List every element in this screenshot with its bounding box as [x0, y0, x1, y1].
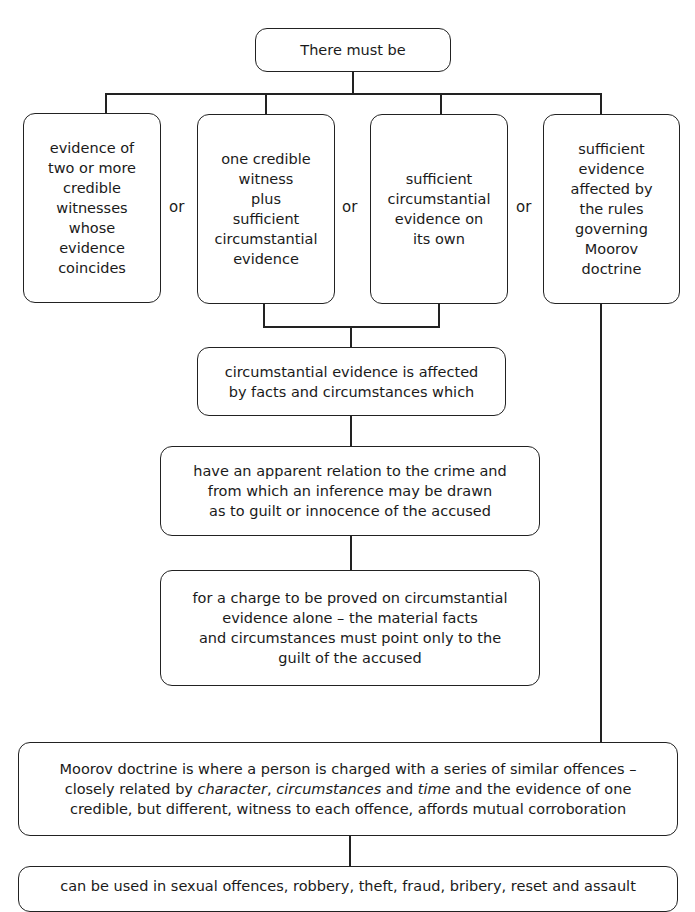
option-label: sufficient circumstantial evidence on it…: [388, 169, 491, 249]
connector: [265, 93, 267, 114]
connector: [105, 93, 107, 114]
circumstantial-step-3: for a charge to be proved on circumstant…: [160, 570, 540, 686]
or-separator: or: [169, 198, 184, 216]
connector: [350, 536, 352, 571]
or-separator: or: [342, 198, 357, 216]
text: and the evidence of one: [450, 781, 631, 797]
option-circumstantial-alone: sufficient circumstantial evidence on it…: [370, 114, 508, 304]
moorov-doctrine-definition: Moorov doctrine is where a person is cha…: [18, 742, 678, 836]
or-separator: or: [516, 198, 531, 216]
connector: [440, 93, 442, 114]
moorov-line-3: credible, but different, witness to each…: [60, 799, 637, 819]
step-text: for a charge to be proved on circumstant…: [192, 588, 507, 668]
option-two-witnesses: evidence of two or more credible witness…: [23, 113, 161, 303]
text: and: [381, 781, 418, 797]
moorov-line-2: closely related by character, circumstan…: [60, 779, 637, 799]
option-moorov: sufficient evidence affected by the rule…: [543, 114, 680, 304]
text: ,: [267, 781, 276, 797]
step-text: have an apparent relation to the crime a…: [193, 461, 506, 521]
connector: [349, 836, 351, 867]
option-label: sufficient evidence affected by the rule…: [571, 139, 653, 279]
connector: [350, 326, 352, 348]
connector: [352, 72, 354, 94]
emphasis-circumstances: circumstances: [276, 781, 381, 797]
option-label: one credible witness plus sufficient cir…: [215, 149, 318, 269]
connector: [438, 304, 440, 327]
moorov-line-1: Moorov doctrine is where a person is cha…: [60, 759, 637, 779]
circumstantial-step-2: have an apparent relation to the crime a…: [160, 446, 540, 536]
connector: [350, 416, 352, 447]
step-text: circumstantial evidence is affected by f…: [225, 362, 479, 402]
usage-text: can be used in sexual offences, robbery,…: [60, 876, 636, 896]
option-label: evidence of two or more credible witness…: [48, 138, 136, 278]
moorov-usage: can be used in sexual offences, robbery,…: [18, 866, 678, 912]
connector: [600, 93, 602, 114]
emphasis-time: time: [418, 781, 451, 797]
circumstantial-step-1: circumstantial evidence is affected by f…: [197, 347, 506, 416]
option-one-witness-plus-circumstantial: one credible witness plus sufficient cir…: [197, 114, 335, 304]
connector: [600, 304, 602, 743]
text: closely related by: [65, 781, 198, 797]
root-node: There must be: [255, 28, 451, 72]
connector: [263, 304, 265, 327]
connector: [105, 93, 601, 95]
emphasis-character: character: [198, 781, 267, 797]
root-label: There must be: [300, 40, 405, 60]
